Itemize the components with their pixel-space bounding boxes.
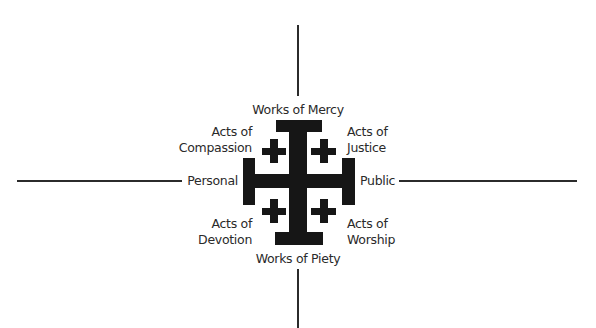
label-right-public: Public [360, 173, 395, 189]
label-acts-of-justice: Acts of Justice [347, 124, 388, 156]
label-line: Devotion [172, 232, 252, 248]
axis-line-top [297, 25, 299, 96]
small-cross-tr-h [311, 148, 336, 155]
cross-cap-right [342, 158, 355, 205]
label-acts-of-worship: Acts of Worship [347, 216, 395, 248]
label-line: Acts of [172, 124, 252, 140]
cross-cap-top [276, 120, 322, 132]
label-line: Worship [347, 232, 395, 248]
label-acts-of-devotion: Acts of Devotion [172, 216, 252, 248]
label-line: Acts of [172, 216, 252, 232]
small-cross-br-h [311, 208, 336, 215]
cross-cap-left [243, 158, 255, 205]
label-top-works-of-mercy: Works of Mercy [248, 102, 348, 118]
small-cross-bl-h [262, 208, 286, 215]
label-left-personal: Personal [180, 173, 238, 189]
label-line: Justice [347, 140, 388, 156]
label-acts-of-compassion: Acts of Compassion [172, 124, 252, 156]
cross-cap-bottom [275, 232, 323, 245]
axis-line-left [17, 180, 182, 182]
axis-line-bottom [297, 269, 299, 328]
label-line: Compassion [172, 140, 252, 156]
axis-line-right [399, 180, 577, 182]
label-line: Acts of [347, 216, 395, 232]
label-bottom-works-of-piety: Works of Piety [248, 251, 348, 267]
label-line: Acts of [347, 124, 388, 140]
cross-horizontal-bar [243, 174, 355, 188]
small-cross-tl-h [262, 148, 286, 155]
